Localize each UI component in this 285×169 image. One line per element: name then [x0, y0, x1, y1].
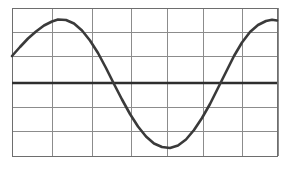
figure-container — [0, 0, 285, 169]
sine-wave-plot — [0, 0, 285, 169]
